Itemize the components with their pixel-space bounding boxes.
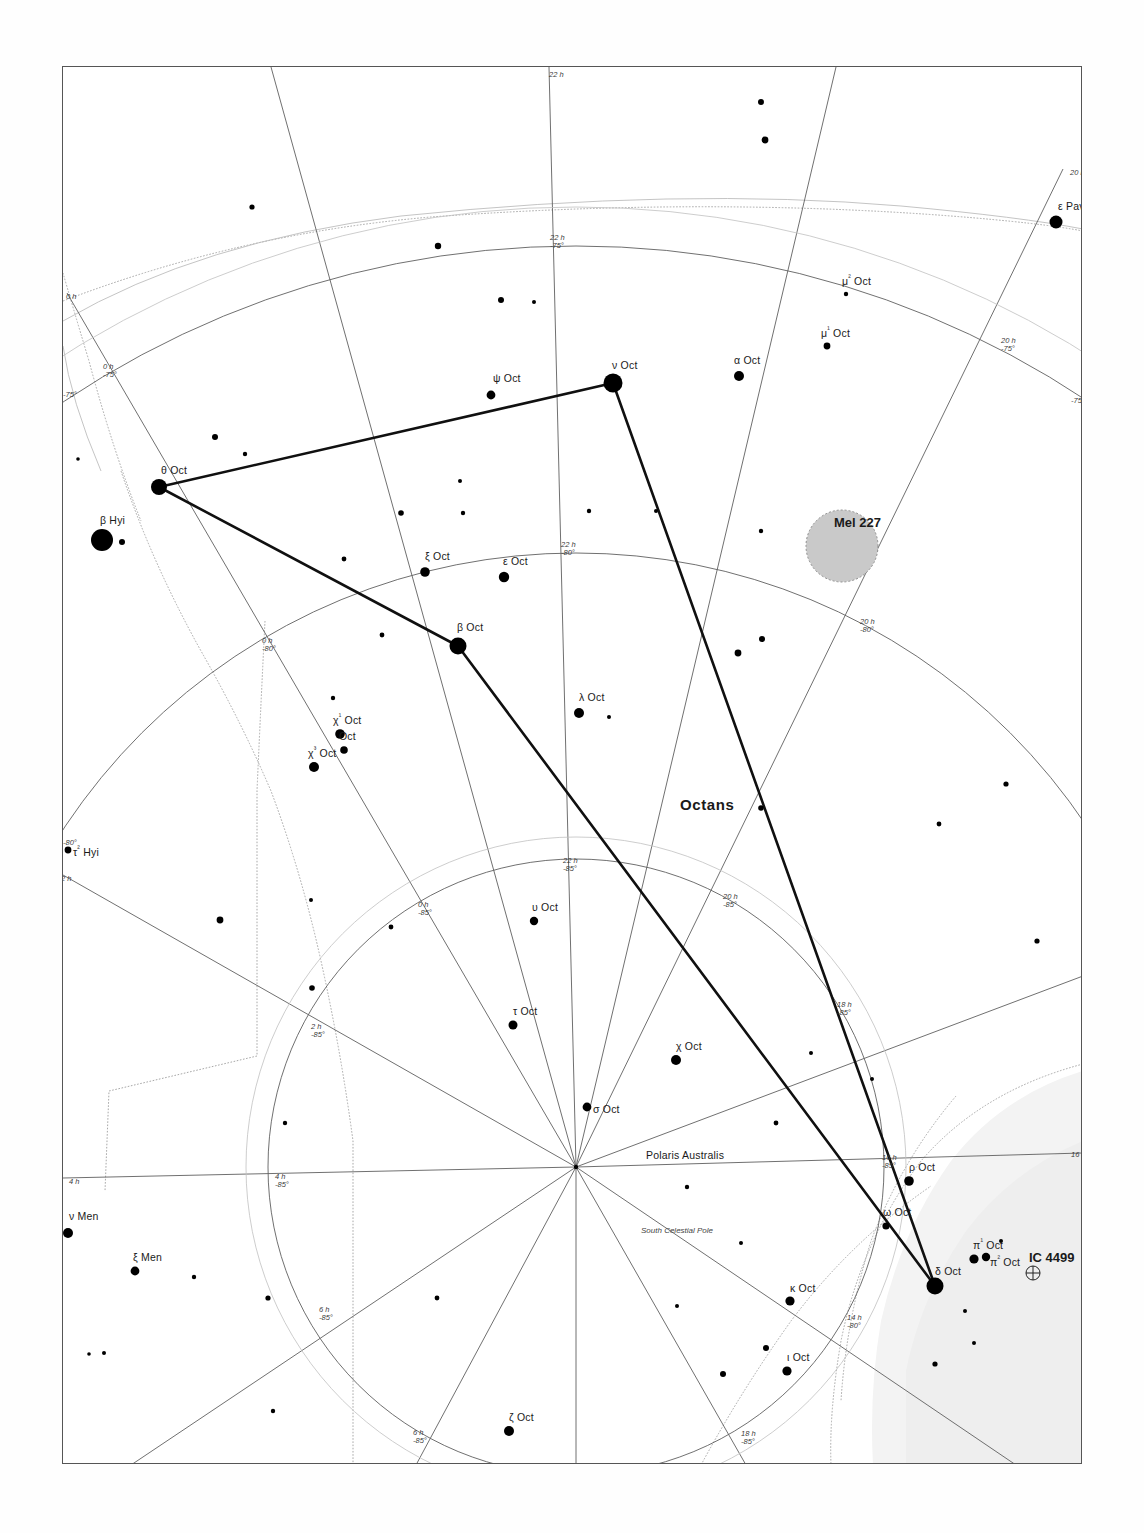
star-ν Men [63, 1228, 73, 1238]
field-star [498, 297, 504, 303]
grid-label-2: 0 h [66, 293, 76, 301]
star-label-κ Oct: κ Oct [790, 1282, 816, 1294]
star-label-ψ Oct: ψ Oct [493, 372, 521, 384]
star-label-υ Oct: υ Oct [532, 901, 558, 913]
grid-label-1: 20 h [1070, 169, 1082, 177]
constellation-line-θ Oct-β Oct [159, 487, 458, 646]
field-star [932, 1361, 937, 1366]
star-label-ξ Oct: ξ Oct [425, 550, 450, 562]
field-star [102, 1351, 106, 1355]
star-label-λ Oct: λ Oct [579, 691, 605, 703]
star-label-β Oct: β Oct [457, 621, 483, 633]
star-HIP-b [119, 539, 125, 545]
star-υ Oct [530, 917, 538, 925]
faint-arcs [63, 198, 1082, 471]
star-κ Oct [785, 1296, 794, 1305]
field-star [76, 457, 80, 461]
star-label-μ² Oct: μ² Oct [842, 273, 871, 287]
field-star [774, 1121, 779, 1126]
star-label-β Hyi: β Hyi [100, 514, 125, 526]
field-star [532, 300, 536, 304]
star-α Oct [734, 371, 744, 381]
star-label-τ Oct: τ Oct [513, 1005, 537, 1017]
star-β Hyi [91, 529, 113, 551]
star-label-ρ Oct: ρ Oct [909, 1161, 935, 1173]
field-star [212, 434, 218, 440]
constellation-line-θ Oct-ν Oct [159, 383, 613, 487]
star-label-ν Men: ν Men [69, 1210, 99, 1222]
field-star [762, 137, 769, 144]
field-star [758, 805, 764, 811]
field-star [458, 479, 462, 483]
star-label-π² Oct: π² Oct [990, 1254, 1020, 1268]
star-chart-page: ε Pavμ² Octμ¹ Octα Octν Octψ Octθ Octβ H… [0, 0, 1144, 1533]
grid-label-18: 16 h-85° [882, 1154, 897, 1170]
field-star [739, 1241, 743, 1245]
grid-label-22: 14 h-80° [847, 1314, 862, 1330]
field-star [735, 650, 742, 657]
star-ω Oct [882, 1222, 889, 1229]
star-label-σ Oct: σ Oct [593, 1103, 620, 1115]
star-δ Oct [927, 1278, 944, 1295]
grid-label-19: 16 h [1071, 1151, 1082, 1159]
field-star [587, 509, 591, 513]
grid-label-8: 22 h-80° [561, 541, 576, 557]
star-χ Oct [671, 1055, 681, 1065]
field-star [607, 715, 611, 719]
dso-label-IC 4499: IC 4499 [1029, 1250, 1075, 1265]
grid-label-10: 20 h-80° [860, 618, 875, 634]
field-star [398, 510, 404, 516]
field-star [249, 204, 254, 209]
grid-label-24: 6 h-85° [413, 1429, 427, 1445]
field-star [309, 898, 313, 902]
grid-label-6: 20 h-75° [1001, 337, 1016, 353]
star-μ² Oct [844, 292, 848, 296]
star-π¹ Oct [969, 1254, 978, 1263]
star-χ² Oct [340, 746, 348, 754]
grid-label-14: 0 h-85° [418, 901, 432, 917]
star-label-χ³ Oct: χ³ Oct [308, 745, 336, 759]
star-τ Oct [509, 1021, 518, 1030]
star-τ² Hyi [65, 847, 72, 854]
constellation-line-β Oct-δ Oct [458, 646, 935, 1286]
star-label-χ Oct: χ Oct [676, 1040, 702, 1052]
star-label-μ¹ Oct: μ¹ Oct [821, 325, 850, 339]
grid-label-25: 18 h-85° [741, 1430, 756, 1446]
south-celestial-pole-marker [574, 1165, 578, 1169]
field-star [1034, 938, 1039, 943]
grid-label-23: 6 h-85° [319, 1306, 333, 1322]
grid-label-15: 20 h-85° [723, 893, 738, 909]
grid-label-12: 2 h [62, 875, 71, 883]
field-star [1003, 781, 1008, 786]
star-label-ε Pav: ε Pav [1058, 200, 1082, 212]
grid-label-9: 0 h-80° [262, 637, 276, 653]
field-star [389, 925, 394, 930]
dso-label-Mel 227: Mel 227 [834, 515, 881, 530]
star-label-ξ Men: ξ Men [133, 1251, 162, 1263]
grid-label-17: 2 h-85° [311, 1023, 325, 1039]
star-label-χ¹ Oct: χ¹ Oct [333, 712, 361, 726]
star-ρ Oct [904, 1176, 914, 1186]
field-star [243, 452, 247, 456]
milky-way-shading [872, 1071, 1082, 1464]
star-chart-map: ε Pavμ² Octμ¹ Octα Octν Octψ Octθ Octβ H… [62, 66, 1082, 1464]
field-star [342, 557, 347, 562]
field-star [435, 243, 441, 249]
star-σ Oct [583, 1103, 592, 1112]
field-star [217, 917, 224, 924]
field-star [963, 1309, 967, 1313]
star-ν Oct [604, 374, 623, 393]
field-star [654, 509, 658, 513]
star-χ³ Oct [309, 762, 319, 772]
field-star [271, 1409, 275, 1413]
field-star [283, 1121, 287, 1125]
field-star [763, 1345, 769, 1351]
grid-label-5: -75° [63, 391, 77, 399]
star-label-ζ Oct: ζ Oct [509, 1411, 534, 1423]
star-ξ Oct [420, 567, 430, 577]
star-ε Pav [1050, 216, 1063, 229]
star-label-θ Oct: θ Oct [161, 464, 187, 476]
star-label-π¹ Oct: π¹ Oct [973, 1237, 1003, 1251]
star-ζ Oct [504, 1426, 514, 1436]
field-star [720, 1371, 726, 1377]
